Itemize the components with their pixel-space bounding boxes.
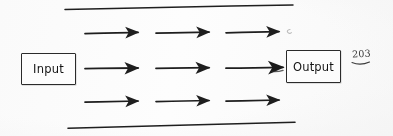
arrow-middle-1	[85, 68, 138, 69]
diagram-canvas: Input Output 203	[0, 0, 393, 136]
node-output[interactable]: Output	[286, 50, 341, 83]
arrow-middle-3	[226, 67, 283, 68]
rule-top	[65, 5, 293, 9]
arrow-top-3	[226, 32, 279, 33]
node-output-label: Output	[293, 60, 334, 74]
arrow-top-1	[85, 32, 138, 33]
arrow-bottom-2	[156, 101, 209, 102]
arrow-row-bottom	[85, 100, 279, 102]
page-number-underline	[352, 62, 370, 64]
stray-mark-icon	[287, 30, 291, 34]
arrow-middle-2	[156, 68, 209, 69]
rule-bottom	[68, 122, 295, 128]
arrow-top-2	[156, 32, 209, 33]
arrow-row-middle	[85, 67, 283, 71]
node-input-label: Input	[33, 62, 64, 76]
page-number: 203	[352, 48, 372, 60]
arrow-row-top	[85, 32, 279, 34]
node-input[interactable]: Input	[21, 53, 76, 85]
arrow-bottom-3	[226, 100, 279, 101]
arrow-retrace-smudge	[272, 70, 283, 71]
arrow-bottom-1	[85, 101, 138, 102]
